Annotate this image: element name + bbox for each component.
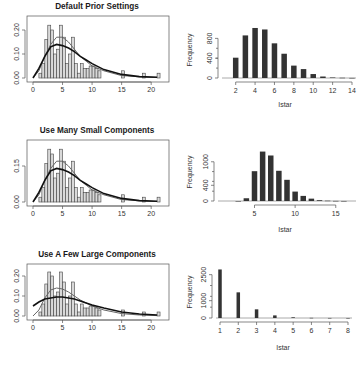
frequency-bar: [346, 318, 350, 319]
x-tick-label: 20: [147, 210, 155, 217]
x-tick-label: 15: [118, 210, 126, 217]
histogram-bar: [57, 292, 60, 316]
frequency-bar: [281, 54, 287, 78]
histogram-bar: [98, 195, 101, 202]
x-tick-label: 8: [346, 327, 350, 334]
x-axis: 05101520: [31, 82, 155, 93]
x-tick-label: 5: [61, 86, 65, 93]
histogram-bar: [92, 190, 95, 202]
histogram-bar: [92, 306, 95, 316]
x-tick-label: 10: [88, 324, 96, 331]
y-tick-label: 0.00: [13, 309, 20, 323]
y-tick-label: 1000: [202, 154, 209, 170]
frequency-bar: [233, 58, 239, 78]
x-tick-label: 10: [291, 210, 299, 217]
y-axis: 0.000.100.20: [13, 269, 25, 323]
x-tick-label: 14: [348, 87, 356, 94]
histogram-bar: [98, 310, 101, 316]
frequency-bar: [309, 199, 315, 201]
x-tick-label: 6: [309, 327, 313, 334]
histogram-bar: [63, 37, 66, 78]
x-tick-label: 10: [309, 87, 317, 94]
x-tick-label: 0: [31, 210, 35, 217]
y-tick-label: 0.10: [13, 289, 20, 303]
panel-row3-left: Use A Few Large Components 05101520 0.00…: [13, 250, 169, 331]
histogram-bar: [54, 54, 57, 78]
frequency-bar: [301, 196, 307, 201]
histogram-bar: [51, 154, 54, 202]
x-tick-label: 15: [118, 324, 126, 331]
x-axis-label: Istar: [278, 101, 292, 108]
histogram-bar: [42, 304, 45, 316]
panel-row1-right: 24681012140400800 Istar Frequency: [186, 28, 356, 108]
histogram-bar: [86, 68, 89, 78]
panel-row1-left: Default Prior Settings 05101520 0.000.10…: [13, 2, 169, 93]
histogram-bar: [157, 73, 160, 78]
frequency-barplot: 12345678010002500: [200, 267, 352, 334]
histogram-bar: [39, 312, 42, 316]
histogram-bar: [39, 73, 42, 78]
frequency-bar: [272, 43, 278, 78]
histogram: [39, 25, 160, 78]
y-tick-label: 400: [202, 179, 209, 191]
x-tick-label: 6: [273, 87, 277, 94]
frequency-bar: [260, 152, 266, 201]
x-tick-label: 15: [332, 210, 340, 217]
y-tick-label: 800: [206, 32, 213, 44]
histogram-bar: [157, 312, 160, 316]
histogram-bar: [86, 192, 89, 202]
histogram-bar: [68, 178, 71, 202]
y-tick-label: 0.20: [13, 269, 20, 283]
x-tick-label: 8: [292, 87, 296, 94]
histogram-bar: [71, 37, 74, 78]
frequency-bar: [310, 74, 316, 78]
frequency-bar: [291, 66, 297, 78]
x-tick-label: 10: [88, 210, 96, 217]
histogram-bar: [63, 161, 66, 202]
histogram-bar: [83, 68, 86, 78]
y-axis-label: Frequency: [186, 275, 194, 309]
frequency-bar: [330, 78, 336, 79]
frequency-bar: [284, 180, 290, 201]
x-axis: 05101520: [31, 320, 155, 331]
y-axis-label: Frequency: [186, 33, 194, 67]
frequency-bar: [268, 155, 274, 201]
histogram-bar: [45, 40, 48, 78]
frequency-bar: [291, 317, 295, 318]
histogram-bar: [68, 54, 71, 78]
x-tick-label: 10: [88, 86, 96, 93]
y-tick-label: 2500: [200, 267, 207, 283]
frequency-bar: [218, 269, 222, 318]
panel-row2-right: 5101504001000 Istar Frequency: [186, 152, 356, 233]
histogram-bar: [77, 73, 80, 78]
y-tick-label: 1000: [200, 293, 207, 309]
frequency-barplot: 5101504001000: [202, 152, 356, 217]
histogram-bar: [80, 304, 83, 316]
histogram-bar: [83, 308, 86, 316]
y-tick-label: 0: [202, 199, 209, 203]
panel-title: Default Prior Settings: [55, 2, 139, 11]
x-axis-label: Istar: [276, 344, 290, 351]
y-tick-label: 400: [206, 52, 213, 64]
histogram: [39, 149, 160, 202]
frequency-bar: [237, 292, 241, 318]
histogram: [39, 272, 160, 316]
x-tick-label: 20: [147, 324, 155, 331]
histogram-bar: [39, 197, 42, 202]
histogram-bar: [77, 312, 80, 316]
frequency-bar: [244, 198, 250, 201]
histogram-bar: [80, 64, 83, 78]
y-axis: 0.000.15: [13, 159, 25, 209]
frequency-bar: [317, 200, 323, 201]
y-tick-label: 0.20: [13, 23, 20, 37]
y-axis-label: Frequency: [186, 155, 194, 189]
panel-row3-right: 12345678010002500 Istar Frequency: [186, 267, 352, 351]
x-tick-label: 0: [31, 324, 35, 331]
frequency-bar: [262, 29, 268, 78]
frequency-bar: [243, 35, 249, 78]
x-tick-label: 0: [31, 86, 35, 93]
histogram-bar: [71, 161, 74, 202]
histogram-bar: [77, 197, 80, 202]
histogram-bar: [60, 272, 63, 316]
frequency-bar: [333, 201, 339, 202]
